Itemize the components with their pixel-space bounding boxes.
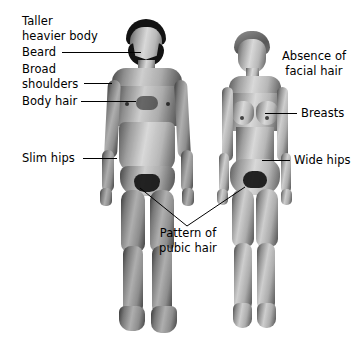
male-arm-right [174, 80, 191, 159]
label-slim-hips: Slim hips [22, 151, 102, 166]
label-breasts: Breasts [301, 106, 356, 121]
female-calf-right [257, 243, 275, 311]
label-wide-hips: Wide hips [294, 153, 356, 168]
female-hand-right [281, 189, 292, 205]
label-pattern-of-pubic-hair: Pattern of pubic hair [155, 226, 221, 255]
female-thigh-right [256, 189, 278, 247]
female-calf-left [234, 243, 252, 311]
male-pubic-hair [134, 174, 160, 192]
female-pubic-hair [243, 171, 267, 188]
label-absence-of-facial-hair: Absence of facial hair [275, 49, 353, 78]
male-foot-left [119, 306, 145, 331]
female-nipple-right [265, 116, 269, 120]
female-forearm-left [219, 153, 229, 193]
sex-characteristics-diagram: Taller heavier body Beard Broad shoulder… [0, 0, 356, 341]
male-forearm-left [102, 150, 114, 192]
male-nipple-left [125, 102, 129, 106]
female-hand-left [217, 189, 228, 205]
male-thigh-left [121, 190, 145, 252]
male-forearm-right [181, 150, 193, 192]
label-broad-shoulders: Broad shoulders [22, 62, 102, 91]
male-calf-left [123, 246, 143, 314]
female-thigh-left [232, 189, 254, 247]
label-body-hair: Body hair [22, 94, 102, 109]
male-chest-hair [136, 96, 158, 110]
male-nipple-right [166, 102, 170, 106]
female-arm-left [222, 87, 233, 161]
female-breast-left [232, 101, 254, 125]
label-beard: Beard [22, 45, 82, 60]
male-hand-left [100, 188, 112, 206]
male-hand-right [182, 188, 194, 206]
female-foot-right [257, 303, 276, 328]
female-foot-left [233, 303, 252, 328]
male-figure [96, 18, 204, 333]
female-nipple-left [240, 116, 244, 120]
female-arm-right [277, 87, 288, 161]
female-breast-right [256, 101, 278, 125]
male-abdomen [119, 122, 175, 172]
label-taller-heavier-body: Taller heavier body [22, 14, 132, 43]
female-forearm-right [281, 153, 291, 193]
male-calf-right [152, 246, 172, 314]
male-foot-right [151, 306, 177, 333]
